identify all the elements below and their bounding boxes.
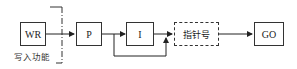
node-pointer-label: 指针号 bbox=[183, 28, 210, 41]
write-function-label: 写入功能 bbox=[14, 50, 50, 62]
node-wr: WR bbox=[20, 22, 46, 46]
node-p: P bbox=[76, 22, 102, 46]
node-i-label: I bbox=[138, 29, 141, 40]
write-function-boundary bbox=[50, 7, 62, 63]
node-i: I bbox=[126, 22, 154, 46]
node-pointer: 指针号 bbox=[174, 22, 219, 46]
node-p-label: P bbox=[86, 29, 92, 40]
node-go: GO bbox=[254, 22, 284, 46]
node-wr-label: WR bbox=[25, 29, 41, 40]
node-go-label: GO bbox=[262, 29, 276, 40]
